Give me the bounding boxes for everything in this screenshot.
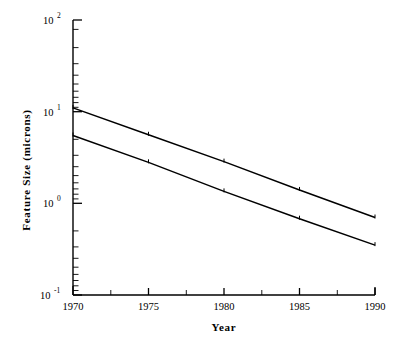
chart-svg: 10 2 10 1 10 0 10 -1 1970 1975 1980 1985… (0, 0, 401, 348)
x-axis-title: Year (212, 321, 237, 333)
y-tick-label-1: 10 (43, 198, 54, 209)
y-tick-exponent-3: 2 (57, 11, 61, 20)
x-axis-ticks (73, 286, 375, 295)
x-tick-label-2: 1980 (214, 301, 235, 312)
y-tick-label-3: 10 (43, 15, 54, 26)
y-tick-label-2: 10 (43, 107, 54, 118)
y-axis-major-ticks (73, 20, 82, 295)
series-line-upper (73, 108, 375, 218)
chart-figure: 10 2 10 1 10 0 10 -1 1970 1975 1980 1985… (0, 0, 401, 348)
x-tick-label-0: 1970 (63, 301, 84, 312)
series-upper (73, 105, 375, 219)
y-tick-exponent-1: 0 (57, 194, 61, 203)
y-tick-exponent-0: -1 (54, 286, 60, 295)
chart-axes (73, 20, 375, 295)
x-tick-label-1: 1975 (138, 301, 159, 312)
y-axis-title: Feature Size (microns) (20, 109, 33, 230)
x-tick-label-4: 1990 (365, 301, 386, 312)
y-tick-exponent-2: 1 (57, 103, 61, 112)
y-axis-minor-ticks (73, 29, 79, 290)
y-tick-label-0: 10 (40, 290, 51, 301)
x-tick-label-3: 1985 (289, 301, 310, 312)
series-lower (73, 132, 375, 246)
x-axis-tick-labels: 1970 1975 1980 1985 1990 (63, 301, 386, 312)
y-axis-tick-labels: 10 2 10 1 10 0 10 -1 (40, 11, 61, 301)
